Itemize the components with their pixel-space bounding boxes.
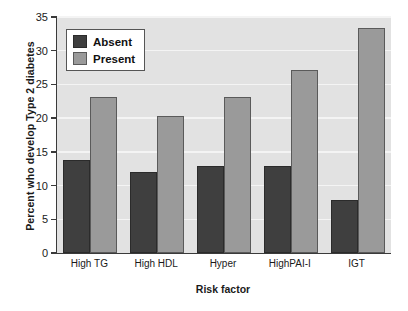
y-axis-tick-label: 35 [36,11,48,23]
legend-swatch-absent [73,35,87,48]
x-axis-tick-labels: High TGHigh HDLHyperHighPAI-IIGT [56,258,390,269]
bar-present [291,70,318,253]
x-axis-tick-label: HighPAI-I [256,258,323,269]
y-axis-tick-label: 0 [42,247,48,259]
bar-group [191,17,258,253]
y-axis-tick-label: 15 [36,146,48,158]
y-axis-tick-label: 20 [36,112,48,124]
y-axis-title: Percent who develop Type 2 diabetes [24,11,36,261]
x-axis-tick-label: High HDL [123,258,190,269]
y-axis-tick [51,219,57,221]
y-axis-tick [51,117,57,119]
bar-chart-figure: Percent who develop Type 2 diabetes 0510… [0,0,408,311]
y-axis-tick [51,185,57,187]
bar-absent [264,166,291,253]
bar-absent [130,172,157,253]
bar-present [358,28,385,253]
bar-present [224,97,251,253]
y-axis-tick [51,151,57,153]
legend-label: Absent [93,36,132,48]
bar-absent [331,200,358,253]
x-axis-title: Risk factor [56,283,390,295]
bar-present [157,116,184,253]
y-axis-tick-label: 30 [36,45,48,57]
y-axis-tick-label: 25 [36,78,48,90]
y-axis-tick-label: 5 [42,213,48,225]
legend-swatch-present [73,52,87,65]
x-axis-tick-label: High TG [56,258,123,269]
x-axis-tick-label: Hyper [190,258,257,269]
bar-group [324,17,391,253]
x-axis-tick-label: IGT [323,258,390,269]
bar-group [257,17,324,253]
bar-absent [63,160,90,253]
y-axis-tick [51,252,57,254]
legend-entry: Present [73,52,135,65]
bar-absent [197,166,224,253]
legend: AbsentPresent [66,29,145,71]
y-axis-tick [51,84,57,86]
bar-present [90,97,117,253]
y-axis-tick [51,50,57,52]
legend-label: Present [93,53,135,65]
legend-entry: Absent [73,35,135,48]
y-axis-tick [51,16,57,18]
y-axis-tick-label: 10 [36,180,48,192]
